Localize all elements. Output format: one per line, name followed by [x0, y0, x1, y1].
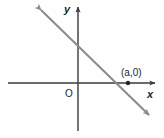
function-line [41, 10, 149, 115]
x-axis-label: x [146, 88, 154, 100]
x-intercept-dot [126, 81, 130, 85]
coordinate-graph-figure: y x O (a,0) [0, 0, 164, 138]
y-axis-label: y [63, 3, 71, 15]
graph-canvas: y x O (a,0) [0, 0, 164, 138]
x-intercept-label: (a,0) [121, 67, 142, 78]
origin-label: O [65, 88, 73, 99]
